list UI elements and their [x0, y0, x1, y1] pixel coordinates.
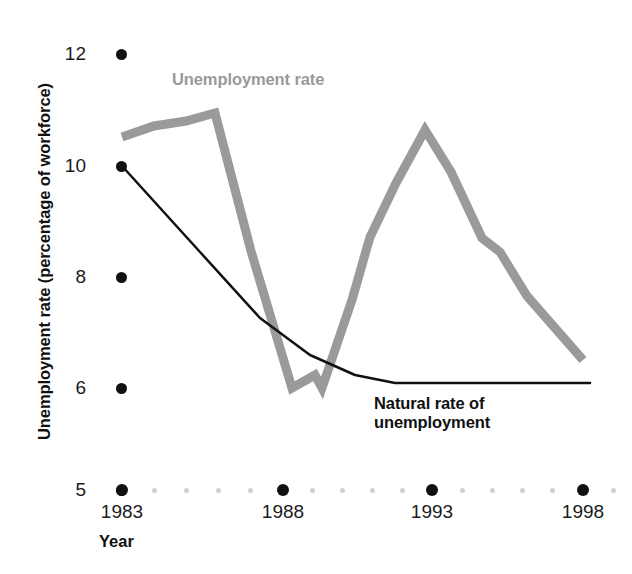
x-tick-label-1983: 1983 [87, 502, 157, 521]
y-tick-label-10: 10 [52, 156, 86, 175]
x-tick-label-1998: 1998 [548, 502, 618, 521]
series-label-natural-rate-line2: unemployment [374, 413, 490, 432]
x-tick-label-1993: 1993 [397, 502, 467, 521]
x-minor-dot [310, 488, 315, 493]
x-minor-dot [370, 488, 375, 493]
x-minor-dot [490, 488, 495, 493]
y-tick-dot-10 [116, 161, 127, 172]
x-minor-dot [340, 488, 345, 493]
series-label-natural-rate-line1: Natural rate of [374, 394, 490, 413]
x-minor-dot [152, 488, 157, 493]
unemployment-chart: Unemployment rate (percentage of workfor… [0, 0, 632, 574]
y-tick-dot-8 [116, 272, 127, 283]
y-tick-dot-12 [116, 49, 127, 60]
x-minor-dot [611, 488, 616, 493]
x-tick-dot-1998 [577, 484, 589, 496]
series-label-natural-rate: Natural rate of unemployment [374, 394, 490, 433]
x-tick-dot-1983 [116, 484, 128, 496]
x-tick-label-1988: 1988 [248, 502, 318, 521]
x-minor-dot [460, 488, 465, 493]
y-tick-label-5: 5 [52, 480, 86, 499]
x-tick-dot-1988 [277, 484, 289, 496]
x-tick-dot-1993 [426, 484, 438, 496]
y-tick-label-12: 12 [52, 44, 86, 63]
x-minor-dot [184, 488, 189, 493]
y-tick-dot-6 [116, 383, 127, 394]
x-minor-dot [520, 488, 525, 493]
y-tick-label-6: 6 [52, 378, 86, 397]
x-minor-dot [216, 488, 221, 493]
x-minor-dot [248, 488, 253, 493]
x-minor-dot [400, 488, 405, 493]
x-axis-title: Year [99, 532, 134, 551]
x-minor-dot [550, 488, 555, 493]
y-tick-label-8: 8 [52, 267, 86, 286]
series-unemployment-rate [122, 113, 583, 388]
series-label-unemployment-rate: Unemployment rate [172, 70, 324, 89]
